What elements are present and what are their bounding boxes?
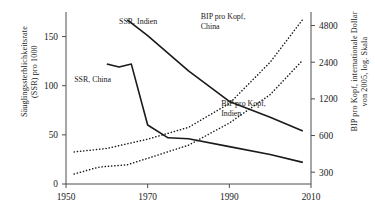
x-axis-tick-label: 1970 [138,192,157,202]
y-axis-left-tick-label: 50 [49,130,59,140]
y-axis-left-title-line1: Säuglingssterblichkeitsrate [20,0,30,157]
x-axis-tick-label: 2010 [302,192,321,202]
y-axis-left-tick-label: 100 [44,81,58,91]
y-axis-left-ticks: 050100150 [44,32,66,189]
y-axis-left-tick-label: 0 [53,179,58,189]
y-axis-left-tick-label: 150 [44,32,58,42]
y-axis-right-ticks: 300600120024004800 [311,21,338,178]
series-line-ssr-indien [127,20,303,131]
y-axis-right-tick-label: 1200 [319,94,338,104]
y-axis-right-tick-label: 600 [319,131,333,141]
series-label-ssr-indien: SSR, Indien [119,17,157,26]
series-line-ssr-china [107,64,303,162]
series-annotations-group: SSR, IndienSSR, ChinaBIP pro Kopf,ChinaB… [74,12,266,118]
chart-plot-area: 050100150 300600120024004800 19501970199… [0,0,375,215]
series-line-bip-pro-kopf-china [74,19,303,152]
y-axis-right-title-line2: von 2005, log. Skala [360,0,370,157]
series-label-bip-china-line2: China [201,22,220,31]
series-label-bip-china-line1: BIP pro Kopf, [201,12,246,21]
series-label-ssr-china: SSR, China [74,75,111,84]
y-axis-right-title: BIP pro Kopf, internationale Dollar von … [350,0,369,157]
x-axis-ticks: 1950197019902010 [57,184,321,202]
y-axis-right-tick-label: 2400 [319,58,338,68]
chart-figure: Säuglingssterblichkeitsrate (SSR) pro 10… [0,0,375,215]
axis-spines [66,12,311,184]
y-axis-right-title-line1: BIP pro Kopf, internationale Dollar [350,0,360,157]
series-label-bip-indien-line1: BIP pro Kopf, [221,99,266,108]
y-axis-left-title-line2: (SSR) pro 1000 [30,0,40,157]
series-label-bip-indien-line2: Indien [221,109,241,118]
y-axis-right-tick-label: 300 [319,168,333,178]
x-axis-tick-label: 1990 [220,192,239,202]
y-axis-left-title: Säuglingssterblichkeitsrate (SSR) pro 10… [20,0,39,157]
data-series-group [74,19,303,174]
y-axis-right-tick-label: 4800 [319,21,338,31]
x-axis-tick-label: 1950 [57,192,76,202]
